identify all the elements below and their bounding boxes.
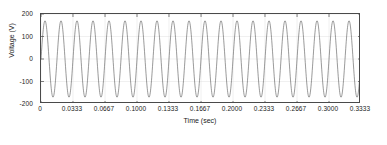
y-axis-title: Voltage (V) — [8, 6, 15, 76]
y-tick-label: -200 — [20, 100, 33, 107]
x-tick-label: 0 — [38, 105, 42, 112]
y-tick-label: 100 — [22, 32, 33, 39]
y-axis-tick-labels: 2001000-100-200 — [0, 13, 36, 103]
x-tick-label: 0.2000 — [222, 105, 242, 112]
y-tick-label: -100 — [20, 77, 33, 84]
x-tick-label: 0.2333 — [254, 105, 274, 112]
x-tick-label: 0.0667 — [94, 105, 114, 112]
x-axis-tick-labels: 00.03330.06670.10000.13330.16670.20000.2… — [40, 105, 360, 117]
waveform-plot-svg — [41, 14, 360, 103]
x-tick-label: 0.1000 — [126, 105, 146, 112]
x-tick-label: 0.3333 — [350, 105, 370, 112]
x-tick-label: 0.2667 — [286, 105, 306, 112]
figure-canvas: 2001000-100-200 Voltage (V) 00.03330.066… — [0, 0, 387, 145]
x-tick-label: 0.1333 — [158, 105, 178, 112]
x-tick-label: 0.0333 — [62, 105, 82, 112]
x-axis-title: Time (sec) — [40, 117, 360, 124]
y-tick-label: 0 — [29, 55, 33, 62]
plot-area — [40, 13, 360, 103]
x-tick-label: 0.1667 — [190, 105, 210, 112]
y-tick-label: 200 — [22, 10, 33, 17]
x-tick-label: 0.3000 — [318, 105, 338, 112]
